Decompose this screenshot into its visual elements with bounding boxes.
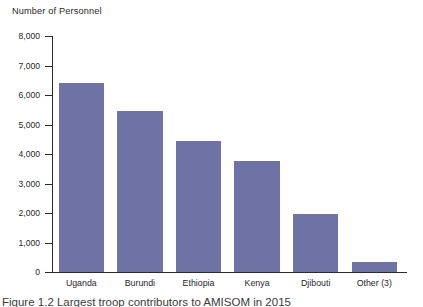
bar-uganda[interactable] [59,83,105,272]
y-axis-tick-label: 4,000 [18,149,40,159]
y-axis-tick [45,154,52,155]
bar-burundi[interactable] [117,111,163,272]
y-axis-tick [45,95,52,96]
y-axis-tick-label: 2,000 [18,208,40,218]
bar-ethiopia[interactable] [176,141,222,272]
y-axis-tick-label: 3,000 [18,179,40,189]
y-axis-tick [45,243,52,244]
bar-chart: Number of Personnel 01,0002,0003,0004,00… [0,0,423,307]
y-axis-tick-label: 5,000 [18,120,40,130]
bar-slot [52,36,111,272]
bar-slot [345,36,404,272]
x-axis-label-burundi: Burundi [111,278,170,288]
y-axis-tick [45,213,52,214]
figure-caption-text: Figure 1.2 Largest troop contributors to… [2,296,291,307]
y-axis-tick [45,272,52,273]
bar-slot [111,36,170,272]
x-axis-label-kenya: Kenya [228,278,287,288]
bar-slot [286,36,345,272]
x-axis-label-uganda: Uganda [52,278,111,288]
x-axis-label-ethiopia: Ethiopia [169,278,228,288]
y-axis-tick [45,125,52,126]
y-axis-tick-label: 1,000 [18,238,40,248]
bar-kenya[interactable] [234,161,280,272]
y-axis-tick [45,66,52,67]
y-axis-tick [45,36,52,37]
y-axis-tick-label: 6,000 [18,90,40,100]
y-axis-tick-label: 8,000 [18,31,40,41]
x-axis-label-other-3: Other (3) [345,278,404,288]
y-axis-tick [45,184,52,185]
bar-djibouti[interactable] [293,214,339,272]
y-axis-title: Number of Personnel [12,6,102,16]
bar-slot [228,36,287,272]
plot-area [52,36,404,272]
bar-slot [169,36,228,272]
figure-caption-clipped: Figure 1.2 Largest troop contributors to… [0,296,423,307]
x-axis-label-djibouti: Djibouti [286,278,345,288]
y-axis-tick-label: 7,000 [18,61,40,71]
bar-other-3[interactable] [352,262,398,272]
y-axis-tick-label: 0 [35,267,40,277]
